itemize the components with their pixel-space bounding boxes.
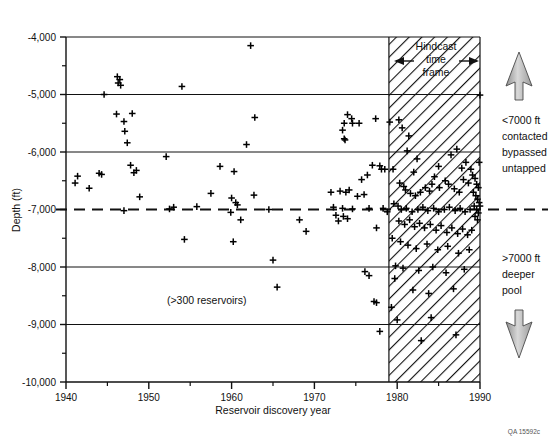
y-axis-tick-label: -8,000 [28,262,57,273]
y-axis-tick-label: -5,000 [28,89,57,100]
y-axis-tick-label: -9,000 [28,319,57,330]
y-axis-tick-label: -4,000 [28,32,57,43]
y-axis-tick-label: -6,000 [28,147,57,158]
scatter-chart: -4,000-5,000-6,000-7,000-8,000-9,000-10,… [0,0,548,448]
x-axis-tick-label: 1960 [220,392,243,403]
x-axis-title: Reservoir discovery year [215,404,331,416]
y-axis-title: Depth (ft) [10,188,22,232]
x-axis-tick-label: 1980 [386,392,409,403]
figure-credit: QA 15592c [508,428,541,436]
x-axis-tick-label: 1970 [303,392,326,403]
x-axis-tick-label: 1950 [138,392,161,403]
deep-label-line-3: pool [502,284,522,296]
x-axis-tick-label: 1990 [469,392,492,403]
reservoir-count-annotation: (>300 reservoirs) [167,294,247,306]
y-axis-tick-label: -7,000 [28,204,57,215]
deep-label-line-1: >7000 ft [502,252,540,264]
y-axis-tick-label: -10,000 [22,377,56,388]
figure-container: -4,000-5,000-6,000-7,000-8,000-9,000-10,… [0,0,548,448]
plot-panel [56,37,548,382]
hindcast-label-line-2: time [426,53,446,65]
shallow-label-line-3: bypassed [502,146,547,158]
shallow-label-line-4: untapped [502,162,546,174]
hindcast-label-line-1: Hindcast [416,40,457,52]
hindcast-label-line-3: frame [423,66,450,78]
x-axis-tick-label: 1940 [55,392,78,403]
shallow-label-line-2: contacted [502,130,548,142]
deep-label-line-2: deeper [502,268,535,280]
shallow-label-line-1: <7000 ft [502,114,540,126]
